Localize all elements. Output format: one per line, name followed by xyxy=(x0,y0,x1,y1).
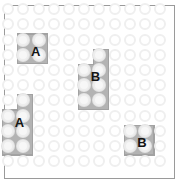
piece-edge xyxy=(32,125,33,141)
piece-edge xyxy=(17,49,18,65)
piece-edge xyxy=(78,64,79,80)
piece-edge xyxy=(124,154,140,155)
piece-cell[interactable] xyxy=(93,49,109,65)
piece-edge xyxy=(17,33,33,34)
piece-cell[interactable] xyxy=(2,125,18,141)
piece-edge xyxy=(17,33,18,49)
piece-cell[interactable] xyxy=(139,125,155,141)
piece-edge xyxy=(93,49,94,65)
piece-edge xyxy=(153,140,154,156)
piece-cell[interactable] xyxy=(78,94,94,110)
piece-edge xyxy=(2,109,3,125)
piece-cell[interactable] xyxy=(2,140,18,156)
piece-edge xyxy=(78,94,79,110)
piece-edge xyxy=(17,94,33,95)
piece-edge xyxy=(2,109,18,110)
piece-edge xyxy=(124,140,125,156)
piece-cell[interactable] xyxy=(124,140,140,156)
piece-cell[interactable] xyxy=(93,64,109,80)
piece-edge xyxy=(17,154,33,155)
piece-edge xyxy=(108,94,109,110)
piece-edge xyxy=(153,125,154,141)
piece-edge xyxy=(139,154,155,155)
piece-edge xyxy=(47,49,48,65)
piece-edge xyxy=(93,49,109,50)
piece-cell[interactable] xyxy=(32,49,48,65)
piece-edge xyxy=(2,125,3,141)
piece-cell[interactable] xyxy=(139,140,155,156)
piece-edge xyxy=(108,64,109,80)
piece-cell[interactable] xyxy=(17,33,33,49)
piece-cell[interactable] xyxy=(78,64,94,80)
piece-edge xyxy=(32,109,33,125)
piece-cell[interactable] xyxy=(17,49,33,65)
piece-edge xyxy=(78,79,79,95)
piece-cell[interactable] xyxy=(78,79,94,95)
piece-edge xyxy=(32,140,33,156)
piece-edge xyxy=(78,109,94,110)
piece-cell[interactable] xyxy=(17,94,33,110)
piece-edge xyxy=(17,94,18,110)
piece-edge xyxy=(108,79,109,95)
piece-edge xyxy=(139,125,155,126)
peg-puzzle-board[interactable]: ABAB xyxy=(0,0,180,184)
piece-edge xyxy=(2,154,18,155)
piece-cell[interactable] xyxy=(2,109,18,125)
piece-cell[interactable] xyxy=(93,94,109,110)
piece-edge xyxy=(32,63,48,64)
piece-edge xyxy=(93,109,109,110)
piece-edge xyxy=(108,49,109,65)
piece-cell[interactable] xyxy=(17,109,33,125)
piece-edge xyxy=(124,125,125,141)
piece-cell[interactable] xyxy=(93,79,109,95)
piece-cell[interactable] xyxy=(17,125,33,141)
piece-edge xyxy=(78,64,94,65)
piece-edge xyxy=(32,94,33,110)
piece-edge xyxy=(17,63,33,64)
piece-cell[interactable] xyxy=(17,140,33,156)
piece-edge xyxy=(47,33,48,49)
piece-edge xyxy=(124,125,140,126)
piece-cell[interactable] xyxy=(124,125,140,141)
piece-cell[interactable] xyxy=(32,33,48,49)
piece-edge xyxy=(32,33,48,34)
piece-edge xyxy=(2,140,3,156)
pieces-layer xyxy=(0,0,180,184)
